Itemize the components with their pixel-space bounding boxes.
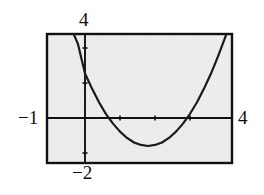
y-axis-max-label: 4 (79, 10, 89, 29)
x-axis-min-label: −1 (18, 108, 38, 127)
graph-plot (0, 0, 264, 195)
y-axis-min-label: −2 (72, 163, 92, 182)
graph-figure: 4 −1 4 −2 (0, 0, 264, 195)
x-axis-max-label: 4 (238, 108, 248, 127)
